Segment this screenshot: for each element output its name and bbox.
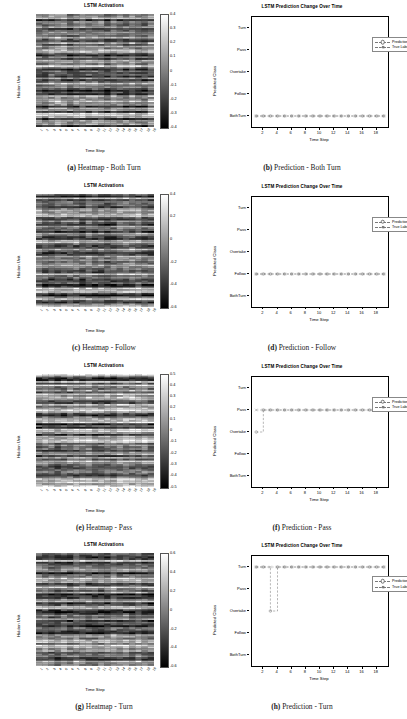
- true-label-line-sample: [375, 45, 390, 50]
- prediction-ytick-col: BothTurnFollowOvertakePassTurn: [203, 376, 249, 486]
- prediction-xtick-mark: [277, 307, 278, 310]
- heatmap-xtick: 9: [89, 667, 93, 671]
- prediction-plot-area: PredictionTrue Label: [251, 376, 389, 488]
- colorbar-tick: 0.4: [170, 12, 175, 16]
- heatmap-xtick: 14: [121, 487, 126, 492]
- prediction-xtick: 14: [345, 310, 349, 315]
- prediction-ytick-col: BothTurnFollowOvertakePassTurn: [203, 16, 249, 126]
- prediction-xtick-mark: [347, 127, 348, 130]
- heatmap-xtick: 11: [102, 667, 107, 672]
- true-label-line-sample: [375, 404, 390, 409]
- heatmap-xtick: 11: [102, 307, 107, 312]
- lstm-figure: LSTM Activations123456789101112131415161…: [0, 0, 407, 719]
- colorbar-tick: -0.1: [170, 439, 177, 443]
- true-label-line-sample: [375, 225, 390, 230]
- heatmap-xtick: 8: [83, 128, 87, 132]
- prediction-xlabel: Time Step: [251, 317, 387, 322]
- prediction-xtick-mark: [305, 666, 306, 669]
- heatmap-xtick-row: 12345678910111213141516171819: [36, 308, 154, 326]
- prediction-xtick-mark: [362, 307, 363, 310]
- prediction-xtick-row: 24681012141618: [251, 666, 387, 676]
- heatmap-xtick: 4: [58, 488, 62, 492]
- heatmap-xtick: 14: [121, 667, 126, 672]
- legend-row-true-label: True Label: [375, 45, 407, 50]
- true-label-line-sample: [375, 584, 390, 589]
- prediction-xtick: 10: [317, 490, 321, 495]
- prediction-xtick-mark: [319, 666, 320, 669]
- prediction-xtick-mark: [262, 127, 263, 130]
- prediction-xtick-mark: [277, 666, 278, 669]
- prediction-xtick-mark: [333, 127, 334, 130]
- heatmap-xtick: 18: [145, 667, 150, 672]
- prediction-ytick: Overtake: [230, 69, 246, 74]
- prediction-xtick: 14: [345, 130, 349, 135]
- prediction-xtick-mark: [305, 307, 306, 310]
- colorbar-ticks: 0.50.40.30.20.10-0.1-0.2-0.3-0.4-0.5: [168, 374, 190, 487]
- prediction-xtick: 4: [275, 130, 277, 135]
- colorbar-tick: -0.2: [170, 451, 177, 455]
- prediction-xtick: 14: [345, 490, 349, 495]
- heatmap-title: LSTM Activations: [6, 542, 202, 547]
- prediction-ytick: BothTurn: [230, 652, 246, 657]
- colorbar-tick: 0: [170, 69, 172, 73]
- prediction-ytick-mark: [247, 115, 250, 116]
- prediction-panel-d: LSTM Prediction Change Over TimePredicti…: [203, 180, 401, 340]
- prediction-xtick-mark: [376, 487, 377, 490]
- colorbar-tick: 0.1: [170, 417, 175, 421]
- prediction-ytick-mark: [247, 251, 250, 252]
- heatmap-xtick: 18: [145, 487, 150, 492]
- prediction-ytick-mark: [247, 453, 250, 454]
- prediction-xtick-mark: [333, 307, 334, 310]
- prediction-xtick-mark: [333, 666, 334, 669]
- figure-row: LSTM Activations123456789101112131415161…: [0, 539, 407, 719]
- heatmap-plot-area: [36, 553, 154, 666]
- prediction-ytick: Pass: [237, 47, 246, 52]
- heatmap-panel-c: LSTM Activations123456789101112131415161…: [6, 180, 202, 340]
- prediction-xlabel: Time Step: [251, 676, 387, 681]
- figure-row: LSTM Activations123456789101112131415161…: [0, 180, 407, 360]
- prediction-xtick: 6: [290, 310, 292, 315]
- prediction-xtick: 8: [304, 130, 306, 135]
- heatmap-y-spine: [32, 194, 35, 307]
- prediction-xtick: 10: [317, 669, 321, 674]
- heatmap-xtick: 5: [64, 667, 68, 671]
- heatmap-xtick: 19: [152, 307, 157, 312]
- prediction-xtick-mark: [319, 127, 320, 130]
- heatmap-xtick: 8: [83, 488, 87, 492]
- colorbar-tick: -0.3: [170, 111, 177, 115]
- panel-c: LSTM Activations123456789101112131415161…: [6, 180, 202, 340]
- prediction-xtick-mark: [291, 487, 292, 490]
- prediction-legend: PredictionTrue Label: [372, 217, 407, 232]
- prediction-xtick-mark: [291, 127, 292, 130]
- prediction-ytick: BothTurn: [230, 472, 246, 477]
- prediction-xtick-row: 24681012141618: [251, 307, 387, 317]
- prediction-ytick-mark: [247, 431, 250, 432]
- prediction-xtick: 2: [261, 490, 263, 495]
- heatmap-canvas: [36, 14, 154, 127]
- prediction-title: LSTM Prediction Change Over Time: [203, 4, 401, 9]
- colorbar-tick: 0: [170, 237, 172, 241]
- prediction-ytick-mark: [247, 49, 250, 50]
- caption-d: (d) Prediction - Follow: [203, 343, 401, 352]
- heatmap-xtick: 3: [52, 488, 56, 492]
- prediction-xtick: 18: [373, 669, 377, 674]
- prediction-ytick-mark: [247, 566, 250, 567]
- prediction-ytick-mark: [247, 654, 250, 655]
- prediction-series: [252, 17, 388, 127]
- prediction-ylabel: Predicted Class: [212, 605, 217, 635]
- legend-label-prediction: Prediction: [392, 579, 407, 583]
- prediction-ytick-mark: [247, 93, 250, 94]
- prediction-xtick: 2: [261, 669, 263, 674]
- heatmap-ylabel: Hidden Unit: [16, 435, 21, 457]
- colorbar-tick: -0.6: [170, 305, 177, 309]
- prediction-xtick-mark: [362, 127, 363, 130]
- prediction-ytick: Pass: [237, 406, 246, 411]
- heatmap-xtick: 13: [114, 127, 119, 132]
- prediction-ytick-col: BothTurnFollowOvertakePassTurn: [203, 555, 249, 665]
- prediction-ytick: Pass: [237, 226, 246, 231]
- prediction-xtick: 16: [359, 130, 363, 135]
- prediction-xtick-mark: [319, 487, 320, 490]
- prediction-xtick: 4: [275, 669, 277, 674]
- prediction-xtick-row: 24681012141618: [251, 127, 387, 137]
- heatmap-xtick: 3: [52, 128, 56, 132]
